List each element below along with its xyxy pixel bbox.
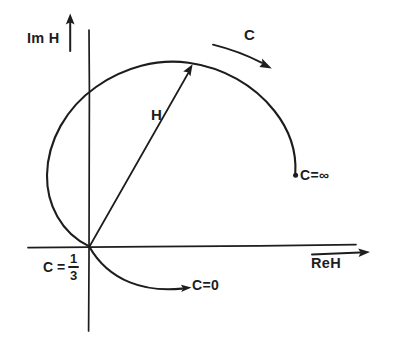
c-one-third-label: C = 1 3	[43, 252, 79, 282]
h-vector-label: H	[151, 106, 162, 123]
c-one-third-lhs: C =	[43, 259, 65, 275]
figure-canvas: Im H ReH C H C=∞ C=0 C = 1 3	[0, 0, 395, 352]
fraction-numerator: 1	[70, 252, 77, 266]
direction-marker-label: C	[244, 26, 255, 43]
locus-curve	[47, 62, 295, 247]
curved-direction-arrow-icon	[213, 45, 272, 69]
locus-curve-lower-branch	[89, 246, 182, 289]
fraction-denominator: 3	[70, 268, 77, 282]
real-axis-label: ReH	[311, 255, 341, 271]
up-arrow-icon	[66, 14, 75, 52]
c-zero-label: C=0	[192, 277, 219, 293]
locus-diagram-svg	[0, 0, 395, 352]
c-infinity-label: C=∞	[300, 167, 329, 183]
imaginary-axis-line	[89, 30, 90, 331]
c-infinity-endpoint-dot	[293, 173, 298, 178]
one-third-fraction: 1 3	[68, 252, 79, 282]
real-axis-line	[28, 245, 356, 248]
imaginary-axis-label: Im H	[27, 30, 60, 46]
h-vector	[90, 64, 193, 245]
